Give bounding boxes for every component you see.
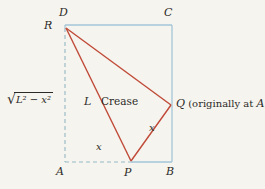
x-label-bottom: x	[96, 142, 102, 152]
q-annotation-text: (originally at	[188, 98, 253, 109]
x-label-pq: x	[149, 123, 155, 133]
crease-label: Crease	[101, 96, 138, 107]
vertex-label-p: P	[124, 167, 131, 178]
crease-length-label-l: L	[84, 96, 91, 107]
left-side-length-radical: √L² − x²	[7, 92, 53, 106]
vertex-label-r: R	[44, 20, 52, 31]
q-annotation: Q (originally at A)	[176, 97, 265, 110]
vertex-label-d: D	[59, 7, 68, 18]
vertex-label-c: C	[164, 7, 172, 18]
geometry-diagram: D C R A P B √L² − x² L Crease x x Q (ori…	[0, 0, 265, 189]
vertex-label-b: B	[166, 166, 174, 177]
vertex-label-q: Q	[176, 97, 185, 110]
q-annotation-close: )	[264, 98, 265, 109]
fold-edge-rq	[66, 28, 171, 105]
radical-expression: L² − x²	[14, 92, 53, 106]
fold-edge-pq	[131, 105, 171, 161]
vertex-label-a: A	[56, 166, 64, 177]
